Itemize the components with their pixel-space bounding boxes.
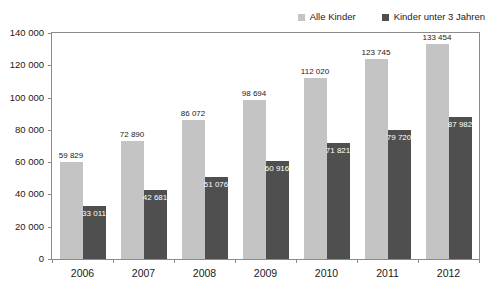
y-axis-tick-label: 100 000 [10, 93, 44, 103]
legend-swatch-icon [298, 14, 305, 21]
y-axis-tick-label: 120 000 [10, 60, 44, 70]
bar-value-label: 112 020 [301, 67, 329, 76]
y-axis-tick [48, 65, 52, 66]
chart-legend: Alle KinderKinder unter 3 Jahren [0, 9, 499, 25]
plot-area: 020 00040 00060 00080 000100 000120 0001… [52, 33, 479, 259]
x-axis-category-label: 2008 [193, 267, 216, 279]
legend-label: Kinder unter 3 Jahren [394, 12, 485, 22]
bar: 112 020 [304, 78, 327, 259]
y-axis-tick-label: 60 000 [15, 157, 44, 167]
x-axis-category-label: 2007 [132, 267, 155, 279]
y-axis-tick-label: 20 000 [15, 222, 44, 232]
bar-value-label: 79 720 [387, 133, 411, 142]
legend-entry: Kinder unter 3 Jahren [382, 12, 485, 22]
bar: 87 982 [449, 117, 472, 259]
bar: 98 694 [243, 100, 266, 259]
y-axis-tick [48, 33, 52, 34]
bar-value-label: 60 916 [265, 164, 289, 173]
bar: 71 821 [327, 143, 350, 259]
bar: 51 076 [205, 177, 228, 259]
bar-value-label: 87 982 [448, 120, 472, 129]
y-axis-tick-label: 40 000 [15, 189, 44, 199]
legend-label: Alle Kinder [310, 12, 356, 22]
x-axis-tick [113, 259, 114, 263]
x-axis-category-label: 2006 [71, 267, 94, 279]
bar: 42 681 [144, 190, 167, 259]
x-axis-category-label: 2010 [315, 267, 338, 279]
y-axis-tick [48, 227, 52, 228]
y-axis-tick [48, 194, 52, 195]
x-axis-category-label: 2012 [437, 267, 460, 279]
y-axis-tick [48, 162, 52, 163]
bar-value-label: 71 821 [326, 146, 350, 155]
x-axis-tick [479, 259, 480, 263]
legend-swatch-icon [382, 14, 389, 21]
x-axis-category-label: 2011 [376, 267, 399, 279]
bar: 59 829 [60, 162, 83, 259]
y-axis-tick-label: 80 000 [15, 125, 44, 135]
x-axis-tick [418, 259, 419, 263]
bar: 79 720 [388, 130, 411, 259]
y-axis-tick [48, 130, 52, 131]
bar-value-label: 51 076 [204, 180, 228, 189]
bar-value-label: 59 829 [59, 151, 83, 160]
plot-frame: 020 00040 00060 00080 000100 000120 0001… [51, 32, 480, 260]
bar: 60 916 [266, 161, 289, 259]
x-axis-category-label: 2009 [254, 267, 277, 279]
legend-entry: Alle Kinder [298, 12, 356, 22]
bar-value-label: 123 745 [362, 48, 391, 57]
bar: 123 745 [365, 59, 388, 259]
bar-chart: Alle KinderKinder unter 3 Jahren 020 000… [0, 0, 499, 295]
bar-value-label: 133 454 [423, 33, 452, 42]
bar-value-label: 33 011 [82, 209, 106, 218]
bar-value-label: 72 890 [120, 130, 144, 139]
y-axis-tick-label: 140 000 [10, 28, 44, 38]
y-axis-tick-label: 0 [39, 254, 44, 264]
bar: 86 072 [182, 120, 205, 259]
x-axis-tick [296, 259, 297, 263]
x-axis-tick [174, 259, 175, 263]
bar-value-label: 98 694 [242, 89, 266, 98]
bar-value-label: 86 072 [181, 109, 205, 118]
x-axis-tick [235, 259, 236, 263]
bar: 133 454 [426, 44, 449, 259]
x-axis-tick [52, 259, 53, 263]
y-axis-tick [48, 98, 52, 99]
bar: 72 890 [121, 141, 144, 259]
x-axis-tick [357, 259, 358, 263]
bar: 33 011 [83, 206, 106, 259]
bar-value-label: 42 681 [143, 193, 167, 202]
